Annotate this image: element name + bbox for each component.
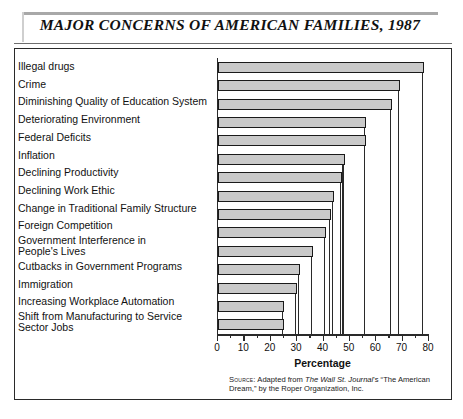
bar [218, 62, 424, 73]
bar [218, 135, 366, 146]
category-label: Inflation [18, 146, 213, 164]
dropline [342, 159, 343, 334]
x-tick-label: 70 [396, 342, 407, 353]
x-tick-label: 40 [317, 342, 328, 353]
category-label: Declining Productivity [18, 164, 213, 182]
category-label: Shift from Manufacturing to Service Sect… [18, 311, 213, 334]
dropline [332, 196, 333, 334]
page-title: MAJOR CONCERNS OF AMERICAN FAMILIES, 198… [22, 16, 438, 34]
source-prefix: Source: [229, 375, 256, 384]
bar [218, 80, 400, 91]
bar [218, 283, 297, 294]
bar [218, 246, 313, 257]
x-tick-minor [257, 334, 258, 338]
source-text-before: Adapted from [256, 375, 305, 384]
bar [218, 227, 326, 238]
category-label: Illegal drugs [18, 58, 213, 76]
bar [218, 209, 331, 220]
x-tick-major [270, 334, 271, 341]
x-tick-major [217, 334, 218, 341]
bar [218, 301, 284, 312]
x-tick-label: 50 [343, 342, 354, 353]
bar [218, 117, 366, 128]
category-label: Federal Deficits [18, 129, 213, 147]
x-axis-ticks [217, 334, 428, 341]
x-tick-minor [336, 334, 337, 338]
x-axis-tick-labels: 01020304050607080 [217, 342, 428, 356]
bar [218, 264, 300, 275]
x-tick-label: 20 [264, 342, 275, 353]
category-label: Deteriorating Environment [18, 111, 213, 129]
source-publication: The Wall St. Journal [305, 375, 373, 384]
bar [218, 172, 342, 183]
dropline [422, 67, 423, 334]
category-label: Crime [18, 76, 213, 94]
bar [218, 99, 392, 110]
dropline [364, 141, 365, 334]
x-tick-minor [309, 334, 310, 338]
category-label: Declining Work Ethic [18, 182, 213, 200]
x-tick-label: 60 [370, 342, 381, 353]
bar [218, 319, 284, 330]
title-rule-bottom [14, 43, 452, 44]
x-tick-major [402, 334, 403, 341]
dropline [295, 288, 296, 334]
dropline [311, 251, 312, 334]
dropline [324, 233, 325, 334]
x-tick-major [428, 334, 429, 341]
x-tick-minor [283, 334, 284, 338]
x-tick-minor [230, 334, 231, 338]
category-label: Change in Traditional Family Structure [18, 200, 213, 218]
x-tick-minor [362, 334, 363, 338]
x-tick-label: 0 [214, 342, 220, 353]
x-tick-minor [415, 334, 416, 338]
x-tick-major [296, 334, 297, 341]
x-tick-major [375, 334, 376, 341]
category-label: Cutbacks in Government Programs [18, 258, 213, 276]
x-tick-minor [388, 334, 389, 338]
x-tick-label: 80 [422, 342, 433, 353]
dropline [398, 86, 399, 334]
category-label: Diminishing Quality of Education System [18, 93, 213, 111]
bar [218, 154, 345, 165]
x-tick-label: 10 [238, 342, 249, 353]
x-tick-major [243, 334, 244, 341]
category-label: Foreign Competition [18, 217, 213, 235]
bar [218, 191, 334, 202]
x-tick-major [349, 334, 350, 341]
source-note: Source: Adapted from The Wall St. Journa… [229, 375, 441, 394]
category-label: Immigration [18, 276, 213, 294]
dropline [390, 104, 391, 334]
category-label: Government Interference in People's Live… [18, 235, 213, 258]
category-axis-labels: Illegal drugsCrimeDiminishing Quality of… [18, 58, 213, 334]
dropline [298, 270, 299, 334]
category-label: Increasing Workplace Automation [18, 293, 213, 311]
dropline [329, 214, 330, 334]
x-tick-label: 30 [291, 342, 302, 353]
dropline [340, 178, 341, 334]
x-axis-title: Percentage [217, 357, 428, 369]
x-tick-major [323, 334, 324, 341]
